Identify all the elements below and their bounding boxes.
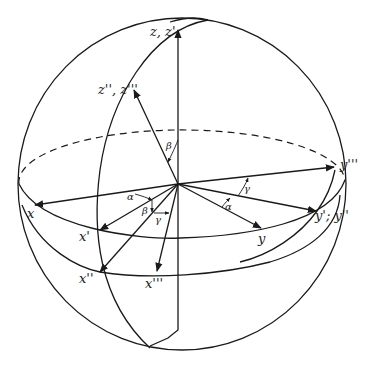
y-triple-prime-arrow [178, 167, 334, 184]
angle-beta-left: β [141, 205, 148, 216]
angle-alpha-left: α [127, 191, 134, 202]
label-x3: x''' [145, 276, 163, 291]
x-prime-arrow [100, 184, 178, 230]
x-triple-prime-arrow [157, 184, 178, 271]
meridian-circle [97, 20, 208, 348]
angle-beta-top: β [165, 140, 172, 151]
label-y1-y2: y'; y'' [314, 208, 349, 223]
alpha-arc-left [135, 194, 152, 200]
x-axis-arrow [35, 184, 178, 205]
tilted-circle-lower [22, 195, 340, 276]
label-z2-z3: z'', z''' [97, 82, 138, 97]
angle-alpha-right: α [225, 201, 232, 212]
label-x: x [27, 206, 35, 221]
vertical-plane-edge [150, 184, 178, 346]
label-y: y [257, 231, 266, 246]
equator-front [19, 180, 345, 238]
label-x1: x' [79, 229, 90, 244]
angle-gamma-right: γ [244, 183, 250, 194]
sphere-figure: z, z' z'', z''' x x' x'' x''' y y'; y'' … [0, 0, 378, 366]
angle-gamma-left: γ [155, 214, 161, 225]
equator-back [19, 130, 345, 184]
x-double-prime-arrow [100, 184, 178, 272]
label-y3: y''' [339, 157, 358, 172]
z-double-prime-arrow [134, 90, 178, 184]
label-z-z1: z, z' [149, 24, 176, 39]
label-x2: x'' [79, 271, 93, 286]
euler-angles-diagram: z, z' z'', z''' x x' x'' x''' y y'; y'' … [0, 0, 378, 366]
